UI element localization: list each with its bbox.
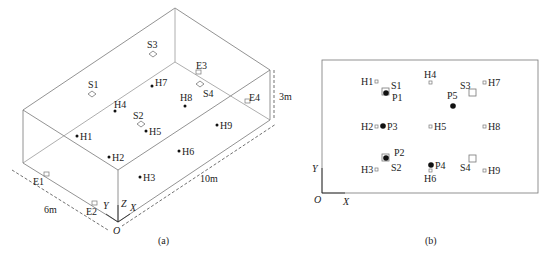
s1-label: S1 <box>88 79 99 90</box>
caption-b: (b) <box>425 235 437 247</box>
dim-width: 6m <box>44 204 57 215</box>
h6-label: H6 <box>182 146 194 157</box>
axis-x-label: X <box>129 202 137 213</box>
p3-label: P3 <box>387 121 398 132</box>
diagram-canvas: 6m 10m 3m Z Y X O S1 S2 S3 S4 E1 E2 E3 E… <box>0 0 545 258</box>
axis-y-label-b: Y <box>312 163 319 174</box>
p2-label: P2 <box>394 147 405 158</box>
s1-label-b: S1 <box>391 80 402 91</box>
p1-label: P1 <box>392 92 403 103</box>
dim-length: 10m <box>200 173 218 184</box>
h1-label-b: H1 <box>361 76 373 87</box>
s3-label-b: S3 <box>460 80 471 91</box>
axes-b <box>322 168 345 193</box>
h2-label-b: H2 <box>361 121 373 132</box>
h9-label: H9 <box>220 120 232 131</box>
e2-label: E2 <box>86 206 97 217</box>
h7-label: H7 <box>155 77 167 88</box>
origin-label-b: O <box>314 194 321 205</box>
p5-label: P5 <box>447 90 458 101</box>
origin-label: O <box>113 225 120 236</box>
exhaust-markers <box>44 70 250 205</box>
axis-y-label: Y <box>103 200 110 211</box>
e4-label: E4 <box>249 92 260 103</box>
h3-label-b: H3 <box>361 164 373 175</box>
h5-label: H5 <box>149 126 161 137</box>
s3-label: S3 <box>147 39 158 50</box>
h6-label-b: H6 <box>424 173 436 184</box>
axis-x-label-b: X <box>342 196 350 207</box>
h4-label-b: H4 <box>424 69 436 80</box>
e3-label: E3 <box>196 60 207 71</box>
h8-label: H8 <box>180 92 192 103</box>
h4-label: H4 <box>114 99 126 110</box>
s4-label-b: S4 <box>460 162 471 173</box>
axis-z-label: Z <box>121 198 127 209</box>
s2-label: S2 <box>133 110 144 121</box>
s4-label: S4 <box>203 88 214 99</box>
h2-label: H2 <box>112 152 124 163</box>
h3-label: H3 <box>143 172 155 183</box>
h5-label-b: H5 <box>434 121 446 132</box>
h1-label: H1 <box>80 131 92 142</box>
h7-label-b: H7 <box>488 77 500 88</box>
source-markers-a <box>88 51 204 127</box>
h-points-a <box>76 85 219 179</box>
dim-height: 3m <box>279 91 292 102</box>
p4-label: P4 <box>435 160 446 171</box>
e1-label: E1 <box>33 176 44 187</box>
caption-a: (a) <box>158 235 169 247</box>
s2-label-b: S2 <box>391 162 402 173</box>
h9-label-b: H9 <box>488 165 500 176</box>
h8-label-b: H8 <box>488 121 500 132</box>
